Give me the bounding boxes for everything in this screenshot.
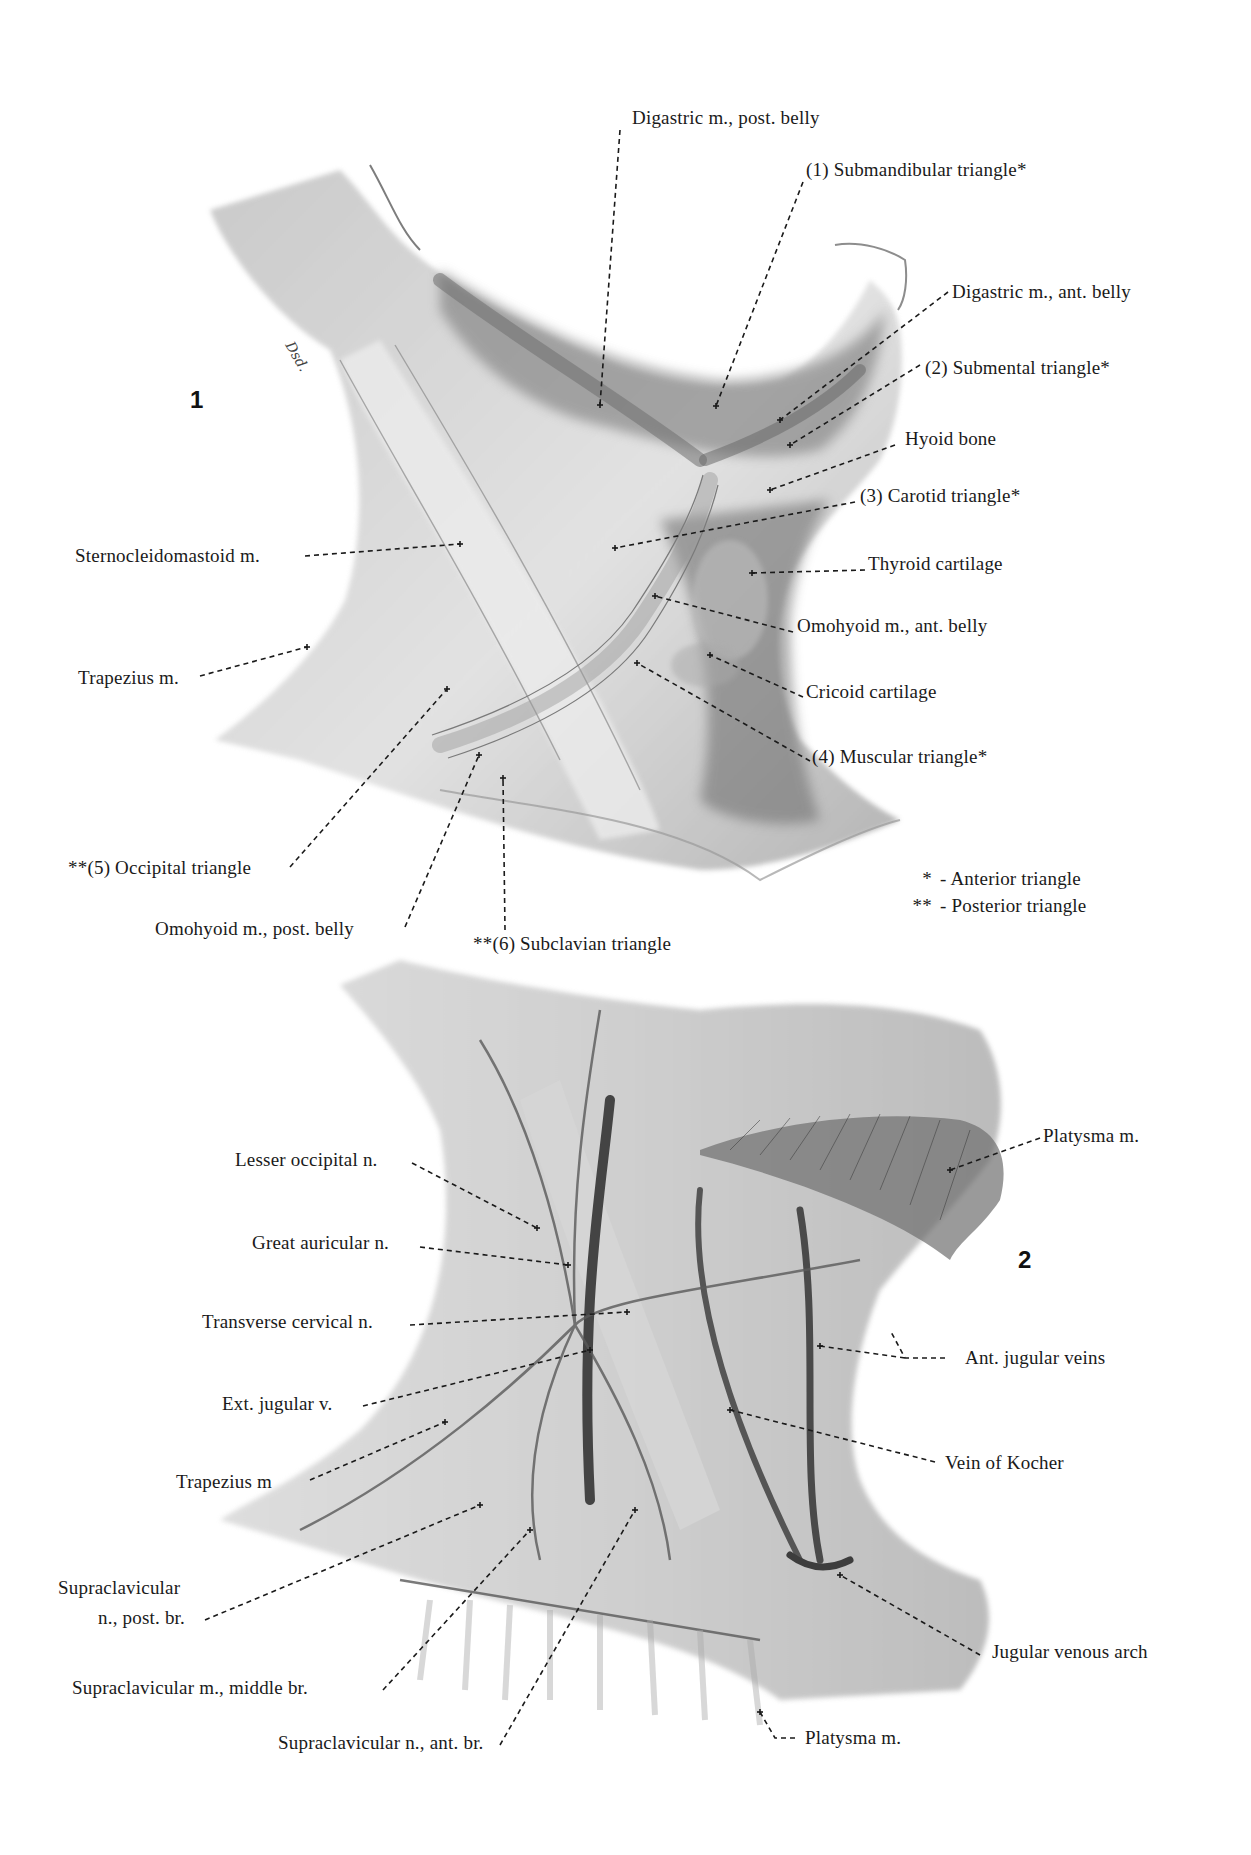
artist-signature: Dsd. (282, 338, 312, 374)
leader-tip-marker (304, 644, 310, 650)
cricoid-cartilage-shape (671, 643, 739, 687)
figure-1-number: 1 (190, 386, 203, 413)
label-trapezius-2: Trapezius m (176, 1471, 272, 1492)
label-great-auricular: Great auricular n. (252, 1232, 389, 1253)
figure-2-number: 2 (1018, 1246, 1031, 1273)
label-cricoid-cartilage: Cricoid cartilage (806, 681, 937, 702)
label-supraclavicular-ant: Supraclavicular n., ant. br. (278, 1732, 484, 1753)
label-ext-jugular: Ext. jugular v. (222, 1393, 332, 1414)
legend-text-posterior: - Posterior triangle (940, 895, 1086, 916)
triangle-legend: * - Anterior triangle ** - Posterior tri… (913, 868, 1087, 916)
label-ant-jugular-veins: Ant. jugular veins (965, 1347, 1105, 1368)
figure-2-illustration (220, 960, 1004, 1725)
label-digastric-ant-belly: Digastric m., ant. belly (952, 281, 1131, 302)
label-lesser-occipital: Lesser occipital n. (235, 1149, 378, 1170)
legend-text-anterior: - Anterior triangle (940, 868, 1081, 889)
label-vein-of-kocher: Vein of Kocher (945, 1452, 1064, 1473)
figure-1-illustration: Dsd. (210, 165, 906, 880)
label-submandibular-triangle: (1) Submandibular triangle* (806, 159, 1027, 181)
legend-marker-anterior: * (922, 868, 932, 889)
label-occipital-triangle: **(5) Occipital triangle (68, 857, 251, 879)
label-platysma-bottom: Platysma m. (805, 1727, 901, 1748)
label-carotid-triangle: (3) Carotid triangle* (860, 485, 1020, 507)
label-trapezius: Trapezius m. (78, 667, 179, 688)
label-omohyoid-ant-belly: Omohyoid m., ant. belly (797, 615, 988, 636)
label-muscular-triangle: (4) Muscular triangle* (812, 746, 987, 768)
label-jugular-venous-arch: Jugular venous arch (992, 1641, 1148, 1662)
label-digastric-post-belly: Digastric m., post. belly (632, 107, 820, 128)
anatomical-plate: Dsd. (0, 0, 1251, 1855)
label-subclavian-triangle: **(6) Subclavian triangle (473, 933, 671, 955)
leader-platysma-bottom (760, 1712, 795, 1738)
label-supraclavicular-middle: Supraclavicular m., middle br. (72, 1677, 308, 1698)
leader-trapezius (200, 647, 307, 676)
label-hyoid-bone: Hyoid bone (905, 428, 996, 449)
thyroid-cartilage-shape (692, 540, 768, 660)
legend-marker-posterior: ** (913, 895, 932, 916)
label-supraclavicular-post-line1: Supraclavicular (58, 1577, 181, 1598)
label-thyroid-cartilage: Thyroid cartilage (868, 553, 1003, 574)
label-sternocleidomastoid: Sternocleidomastoid m. (75, 545, 260, 566)
label-platysma-top: Platysma m. (1043, 1125, 1139, 1146)
label-submental-triangle: (2) Submental triangle* (925, 357, 1110, 379)
label-transverse-cervical: Transverse cervical n. (202, 1311, 373, 1332)
label-omohyoid-post-belly: Omohyoid m., post. belly (155, 918, 354, 939)
label-supraclavicular-post-line2: n., post. br. (98, 1607, 185, 1628)
